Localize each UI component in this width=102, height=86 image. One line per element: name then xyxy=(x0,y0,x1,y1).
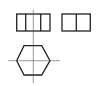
orthographic-drawing xyxy=(0,0,102,86)
side-view xyxy=(62,14,90,31)
